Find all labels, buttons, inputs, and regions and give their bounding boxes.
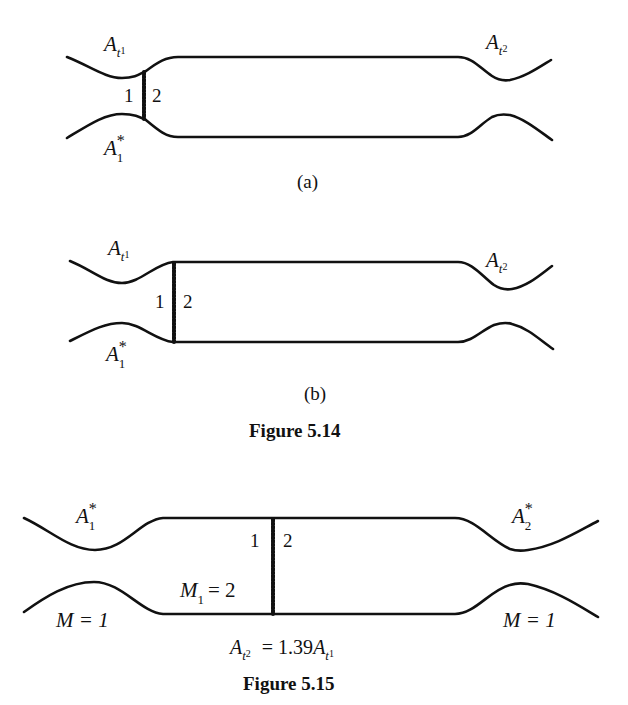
fig-a-downstream-side: 2 xyxy=(152,86,162,105)
fig-a-sonic-area-label: A*1 xyxy=(104,138,123,159)
fig-a-inlet-throat-label: At1 xyxy=(104,34,125,55)
fig-a-sonic-area-symbol: A xyxy=(104,136,117,160)
fig-b-upstream-side: 1 xyxy=(155,292,165,311)
fig-15-mach-upstream-label: M1= 2 xyxy=(180,580,236,601)
fig-b-sonic-area-label: A*1 xyxy=(106,344,125,365)
fig-15-mach-sub: 1 xyxy=(198,592,205,607)
fig-b-inlet-throat-symbol: A xyxy=(108,236,121,260)
fig-b-downstream-side: 2 xyxy=(183,292,193,311)
eq-rhs-subsub: 1 xyxy=(329,648,334,659)
fig-5-15-walls xyxy=(24,518,598,617)
fig-a-inlet-throat-symbol: A xyxy=(104,32,117,56)
fig-15-mach-symbol: M xyxy=(180,578,198,602)
fig-5-14b-walls xyxy=(70,261,553,349)
fig-15-exit-sonic-symbol: A xyxy=(512,504,525,528)
fig-15-upstream-side: 1 xyxy=(250,531,260,550)
fig-b-exit-throat-symbol: A xyxy=(486,248,499,272)
fig-15-equation: At2 = 1.39At1 xyxy=(230,637,334,657)
fig-b-upper-wall xyxy=(70,261,552,289)
fig-b-sonic-area-symbol: A xyxy=(106,342,119,366)
fig-b-inlet-throat-subsub: 1 xyxy=(124,249,129,260)
fig-15-inlet-sonic-label: A*1 xyxy=(76,506,95,527)
eq-rhs-coefficient: = 1.39 xyxy=(262,636,313,658)
fig-a-exit-throat-label: At2 xyxy=(486,32,507,53)
fig-15-exit-sonic-label: A*2 xyxy=(512,506,531,527)
fig-a-upstream-side: 1 xyxy=(124,86,134,105)
fig-b-lower-wall xyxy=(70,323,553,349)
fig-b-sublabel: (b) xyxy=(304,384,326,403)
fig-15-exit-mach-label: M = 1 xyxy=(503,610,556,631)
fig-15-exit-sonic-sub: 2 xyxy=(525,518,532,533)
figure-5-14-caption: Figure 5.14 xyxy=(249,421,340,440)
fig-15-mach-value: = 2 xyxy=(208,578,236,602)
fig-15-inlet-mach-label: M = 1 xyxy=(56,610,109,631)
eq-rhs-symbol: A xyxy=(313,636,325,658)
eq-lhs-symbol: A xyxy=(230,636,242,658)
fig-15-exit-sonic-sup: * xyxy=(525,500,533,517)
fig-15-inlet-sonic-symbol: A xyxy=(76,504,89,528)
fig-a-lower-wall xyxy=(67,114,552,140)
fig-15-inlet-sonic-sup: * xyxy=(89,500,97,517)
figure-5-15-caption: Figure 5.15 xyxy=(243,674,334,693)
fig-a-sonic-area-sub: 1 xyxy=(117,150,124,165)
eq-lhs-subsub: 2 xyxy=(246,648,251,659)
fig-b-exit-throat-label: At2 xyxy=(486,250,507,271)
fig-b-inlet-throat-label: At1 xyxy=(108,238,129,259)
fig-b-exit-throat-subsub: 2 xyxy=(502,261,507,272)
fig-15-downstream-side: 2 xyxy=(283,531,293,550)
fig-b-sonic-area-sup: * xyxy=(119,338,127,355)
fig-15-inlet-sonic-sub: 1 xyxy=(89,518,96,533)
fig-a-sonic-area-sup: * xyxy=(117,132,125,149)
fig-b-sonic-area-sub: 1 xyxy=(119,356,126,371)
fig-5-14a-walls xyxy=(67,57,552,140)
fig-a-exit-throat-symbol: A xyxy=(486,30,499,54)
fig-a-exit-throat-subsub: 2 xyxy=(502,43,507,54)
nozzle-diagrams xyxy=(0,0,628,705)
fig-a-inlet-throat-subsub: 1 xyxy=(120,45,125,56)
fig-a-sublabel: (a) xyxy=(297,172,318,191)
fig-a-upper-wall xyxy=(67,57,551,80)
